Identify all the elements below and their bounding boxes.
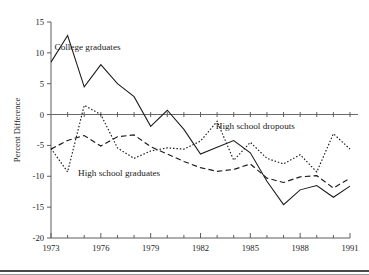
x-tick-label: 1976 (92, 243, 110, 253)
y-axis-title: Percent Difference (12, 98, 22, 163)
tick-labels: -20-15-10-505101519731976197919821985198… (33, 17, 359, 253)
y-tick-label: 10 (35, 48, 44, 58)
series-line-dashed (51, 135, 350, 188)
y-tick-label: 5 (40, 79, 44, 89)
y-tick-label: -10 (33, 171, 44, 181)
series-label-college: College graduates (55, 42, 122, 52)
series-label-graduates: High school graduates (78, 168, 161, 178)
x-tick-label: 1985 (242, 243, 259, 253)
y-tick-label: 15 (35, 17, 44, 27)
y-tick-label: -20 (33, 233, 44, 243)
x-tick-label: 1979 (142, 243, 159, 253)
data-series (51, 36, 350, 205)
y-tick-label: -5 (37, 140, 44, 150)
chart-figure: -20-15-10-505101519731976197919821985198… (0, 0, 369, 275)
line-chart: -20-15-10-505101519731976197919821985198… (0, 0, 369, 275)
x-tick-label: 1982 (192, 243, 209, 253)
footer-rule (0, 270, 369, 272)
y-tick-label: 0 (40, 110, 44, 120)
chart-axes (47, 22, 358, 238)
x-tick-label: 1973 (42, 243, 59, 253)
x-tick-label: 1991 (341, 243, 358, 253)
series-annotations: College graduatesHigh school graduatesHi… (55, 42, 296, 177)
series-line-solid (51, 36, 350, 205)
series-label-dropouts: High school dropouts (216, 121, 296, 131)
x-tick-label: 1988 (292, 243, 309, 253)
y-tick-label: -15 (33, 202, 44, 212)
